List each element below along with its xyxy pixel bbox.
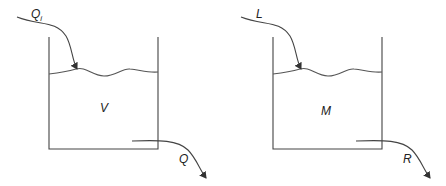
tank-left-walls bbox=[49, 37, 158, 149]
tank-right-inflow-arrow bbox=[241, 17, 301, 69]
tank-left-water-surface bbox=[49, 68, 158, 76]
tank-right-water-surface bbox=[273, 68, 382, 76]
tank-right-walls bbox=[273, 37, 382, 149]
tank-right-outflow-label: R bbox=[403, 152, 412, 166]
tank-left-inflow-arrow bbox=[17, 17, 77, 69]
tank-left-inflow-label: Qi bbox=[31, 7, 42, 23]
tank-left-content-label: V bbox=[100, 101, 109, 115]
tank-right: L M R bbox=[241, 7, 430, 178]
tank-left: Qi V Q bbox=[17, 7, 206, 178]
diagram-canvas: Qi V Q L M R bbox=[0, 0, 446, 186]
tank-right-outflow-arrow bbox=[356, 141, 430, 178]
tank-left-outflow-label: Q bbox=[179, 152, 188, 166]
tank-right-content-label: M bbox=[321, 104, 331, 118]
tank-right-inflow-label: L bbox=[256, 7, 263, 21]
tank-left-outflow-arrow bbox=[132, 141, 206, 178]
